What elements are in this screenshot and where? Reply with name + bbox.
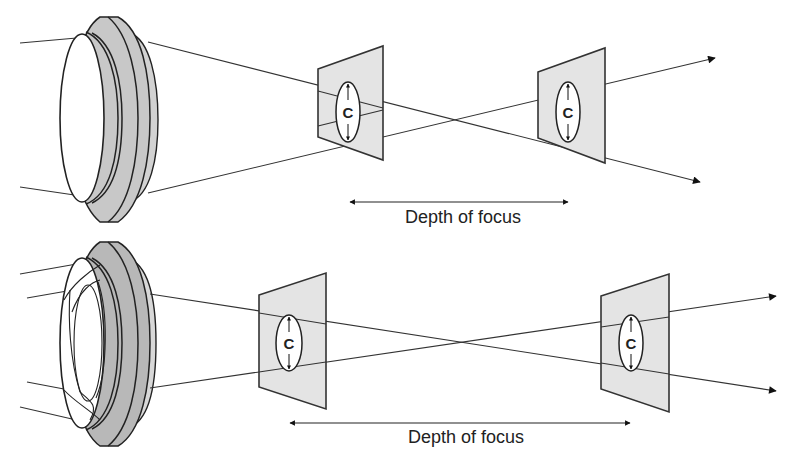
top-panel: C C Depth of focus xyxy=(20,17,715,227)
image-plane-near: C xyxy=(259,273,326,409)
depth-of-focus-diagram: C C Depth of focus xyxy=(0,0,794,457)
ray-converging-top xyxy=(148,42,700,182)
depth-of-focus-label: Depth of focus xyxy=(405,207,521,227)
circle-label: C xyxy=(284,335,295,352)
lens-wide-aperture xyxy=(60,17,158,222)
circle-label: C xyxy=(343,104,354,121)
image-plane-far: C xyxy=(538,48,605,163)
circle-label: C xyxy=(626,335,637,352)
ray-converging-bottom xyxy=(150,296,776,388)
circle-label: C xyxy=(563,104,574,121)
image-plane-near: C xyxy=(318,46,383,160)
bottom-panel: C C Depth of focus xyxy=(20,242,776,447)
image-plane-far: C xyxy=(601,274,669,412)
depth-of-focus-label: Depth of focus xyxy=(408,427,524,447)
lens-narrow-aperture xyxy=(60,242,156,446)
ray-converging-bottom xyxy=(148,58,715,193)
